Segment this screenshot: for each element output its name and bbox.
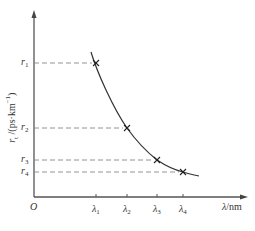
y-axis-title: rt /(ps·km−1) bbox=[4, 68, 19, 168]
y-axis-arrow-icon bbox=[32, 10, 37, 18]
y-tick-label-r2: r2 bbox=[21, 122, 28, 134]
chart-canvas bbox=[0, 0, 255, 231]
x-axis-arrow-icon bbox=[240, 195, 248, 200]
marker-point-3 bbox=[154, 157, 160, 163]
marker-point-2 bbox=[124, 125, 130, 131]
x-tick-label-lambda3: λ3 bbox=[153, 204, 161, 216]
x-tick-label-lambda4: λ4 bbox=[179, 204, 187, 216]
x-axis-title: λ/nm bbox=[222, 201, 242, 212]
origin-label: O bbox=[30, 202, 37, 212]
y-tick-label-r4: r4 bbox=[21, 166, 28, 178]
x-tick-label-lambda1: λ1 bbox=[92, 204, 100, 216]
y-tick-label-r1: r1 bbox=[21, 57, 28, 69]
dispersion-curve bbox=[91, 52, 199, 176]
x-tick-label-lambda2: λ2 bbox=[123, 204, 131, 216]
